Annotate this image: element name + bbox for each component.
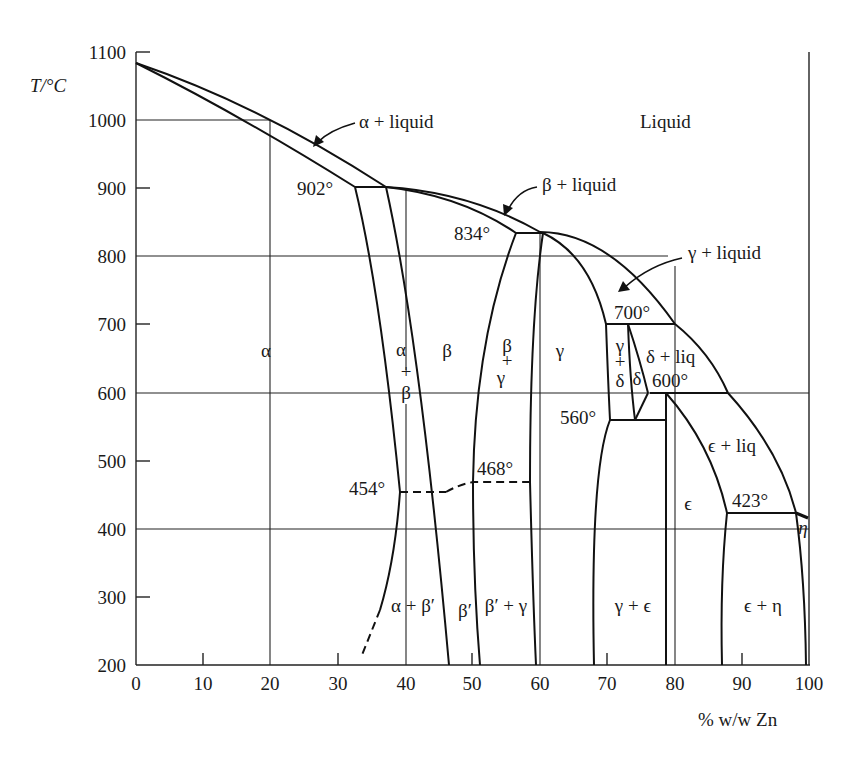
arrow-beta-liquid [508, 187, 537, 210]
svg-text:800: 800 [98, 246, 127, 267]
temp-902: 902° [297, 178, 333, 199]
label-alpha-bprime: α + β′ [391, 595, 435, 616]
label-ab-b: β [401, 382, 411, 403]
svg-text:20: 20 [261, 673, 280, 694]
label-ab-plus: + [401, 361, 412, 382]
svg-text:50: 50 [463, 673, 482, 694]
label-bg-g: γ [496, 367, 505, 388]
label-bprime-gamma: β′ + γ [485, 595, 527, 616]
x-axis-title: % w/w Zn [698, 709, 778, 730]
svg-text:1000: 1000 [88, 110, 126, 131]
label-delta: δ [633, 368, 642, 389]
svg-text:700: 700 [98, 314, 127, 335]
solidus-alpha [136, 63, 355, 187]
label-beta: β [442, 340, 452, 361]
label-eta: η [798, 517, 807, 538]
arrow-gamma-liquid [625, 258, 682, 287]
svg-text:30: 30 [329, 673, 348, 694]
label-ab-a: α [396, 339, 406, 360]
label-delta-liq: δ + liq [646, 346, 696, 367]
temp-454: 454° [349, 478, 385, 499]
label-gamma: γ [555, 340, 564, 361]
arrowhead-gamma-liquid [618, 281, 630, 292]
label-gd-d: δ [616, 370, 625, 391]
svg-text:70: 70 [598, 673, 617, 694]
phase-diagram-chart: 1100 1000 900 800 700 600 500 400 300 20… [0, 0, 859, 760]
svg-text:500: 500 [98, 451, 127, 472]
svg-text:40: 40 [397, 673, 416, 694]
phase-boundaries [136, 63, 808, 665]
label-alpha: α [261, 340, 271, 361]
label-beta-liquid: β + liquid [542, 174, 617, 195]
label-eps: ϵ [684, 493, 692, 514]
svg-text:1100: 1100 [89, 42, 126, 63]
svg-text:90: 90 [733, 673, 752, 694]
x-tick-labels: 0 10 20 30 40 50 60 70 80 90 100 [131, 673, 823, 694]
alpha-solvus [355, 187, 400, 610]
svg-text:0: 0 [131, 673, 141, 694]
temp-560: 560° [560, 407, 596, 428]
svg-text:80: 80 [666, 673, 685, 694]
beta-boundary-left [386, 187, 449, 665]
delta-right-lower [635, 393, 648, 420]
annotation-arrows [313, 123, 682, 292]
label-alpha-liquid: α + liquid [359, 111, 434, 132]
epsilon-right [722, 513, 727, 665]
label-gamma-liquid: γ + liquid [687, 242, 761, 263]
svg-text:100: 100 [795, 673, 824, 694]
label-liquid: Liquid [640, 111, 691, 132]
temp-600: 600° [652, 370, 688, 391]
temp-834: 834° [454, 223, 490, 244]
svg-text:300: 300 [98, 587, 127, 608]
label-bprime: β′ [458, 600, 472, 621]
svg-text:10: 10 [194, 673, 213, 694]
gamma-boundary-right-lower [593, 420, 610, 665]
label-eps-liq: ϵ + liq [708, 435, 756, 456]
arrowhead-beta-liquid [503, 204, 513, 216]
y-tick-labels: 1100 1000 900 800 700 600 500 400 300 20… [88, 42, 126, 676]
temp-468: 468° [477, 458, 513, 479]
label-gd-plus: + [615, 351, 626, 372]
svg-text:200: 200 [98, 655, 127, 676]
dashed-468 [446, 482, 530, 492]
gamma-boundary-right-upper [606, 324, 610, 420]
y-axis-title: T/°C [30, 75, 66, 96]
label-eps-eta: ϵ + η [744, 595, 782, 616]
temp-700: 700° [614, 302, 650, 323]
arrow-alpha-liquid [318, 123, 355, 142]
svg-text:600: 600 [98, 383, 127, 404]
svg-text:400: 400 [98, 519, 127, 540]
label-gamma-eps: γ + ϵ [614, 595, 652, 616]
temp-423: 423° [732, 490, 768, 511]
svg-text:60: 60 [531, 673, 550, 694]
gamma-boundary-left [530, 233, 543, 665]
alpha-solvus-dashed [362, 610, 380, 655]
svg-text:900: 900 [98, 178, 127, 199]
liquidus-gamma [540, 232, 675, 324]
